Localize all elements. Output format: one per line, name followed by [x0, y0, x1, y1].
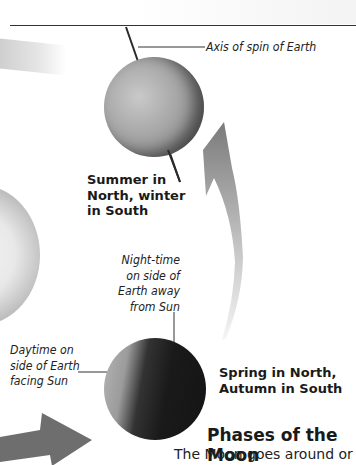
daytime-label: Daytime on side of Earth facing Sun [10, 342, 80, 389]
night-time-label: Night-time on side of Earth away from Su… [110, 252, 180, 314]
section-body: The Moon goes around or [174, 446, 353, 462]
earth-spring-illustration [104, 338, 206, 440]
spring-label: Spring in North, Autumn in South [219, 365, 342, 396]
axis-label: Axis of spin of Earth [206, 39, 316, 55]
summer-label: Summer in North, winter in South [87, 172, 185, 219]
